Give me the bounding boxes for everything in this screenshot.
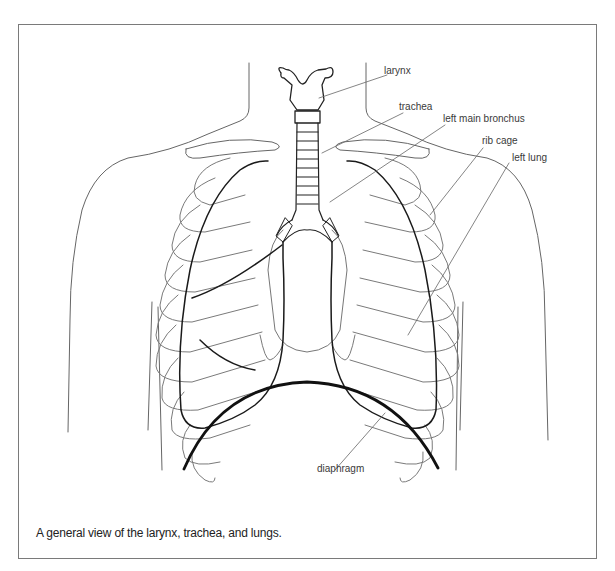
figure-caption: A general view of the larynx, trachea, a… [36, 526, 282, 540]
rib-cage-right [156, 158, 265, 482]
label-larynx: larynx [384, 65, 411, 76]
label-left-lung: left lung [512, 152, 547, 163]
trachea-shape [276, 123, 339, 242]
body-outline [68, 63, 548, 470]
leader-lines [319, 75, 509, 470]
diaphragm-curve [184, 382, 438, 469]
sternum [268, 230, 347, 352]
rib-cage-left [260, 158, 459, 482]
anatomy-illustration [0, 0, 615, 571]
larynx-shape [279, 68, 333, 123]
label-rib-cage: rib cage [482, 135, 518, 146]
label-left-main-bronchus: left main bronchus [443, 113, 525, 124]
label-diaphragm: diaphragm [317, 463, 364, 474]
label-trachea: trachea [399, 101, 432, 112]
lung-outlines [180, 161, 437, 428]
